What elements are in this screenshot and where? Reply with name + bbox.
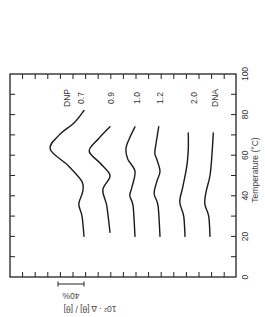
series-curve-dnp-0-7	[50, 111, 84, 237]
series-label: 1.0	[132, 92, 142, 104]
series-curve-1-2	[154, 127, 160, 237]
temperature-tick-labels: 020406080100	[240, 67, 250, 280]
series-curve-2-0	[180, 133, 189, 237]
series-label: DNP	[62, 89, 72, 107]
delta-theta-axis-label: 10² · Δ [θ] / [θ]	[64, 304, 117, 314]
temperature-tick-label: 80	[240, 110, 250, 120]
scale-bar-label: 40%	[62, 291, 79, 301]
series-curve-dna	[205, 133, 214, 237]
series-label: 2.0	[189, 92, 199, 104]
temperature-tick-label: 60	[240, 150, 250, 160]
series-curve-0-9	[89, 127, 110, 233]
series-label: 0.7	[76, 92, 86, 104]
series-label: 0.9	[106, 92, 116, 104]
series-curves	[50, 111, 213, 237]
series-curve-1-0	[126, 127, 135, 237]
temperature-tick-label: 0	[240, 274, 250, 279]
series-label: DNA	[210, 89, 220, 107]
series-labels: DNP0.70.91.01.22.0DNA	[62, 89, 220, 107]
temperature-axis-label: Temperature (°C)	[250, 137, 260, 202]
plot-frame	[10, 74, 236, 277]
chart: 020406080100 Temperature (°C) 10² · Δ [θ…	[0, 0, 265, 317]
scale-bar: 40%	[58, 282, 84, 302]
series-label: 1.2	[155, 92, 165, 104]
axis-ticks	[10, 74, 236, 277]
temperature-tick-label: 100	[240, 67, 250, 81]
temperature-tick-label: 40	[240, 191, 250, 201]
temperature-tick-label: 20	[240, 231, 250, 241]
